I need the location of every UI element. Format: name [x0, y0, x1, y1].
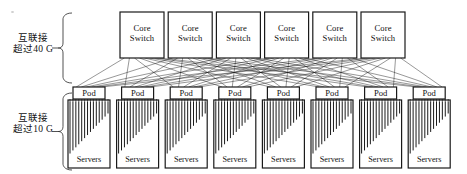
core-switch-2[interactable]: CoreSwitch: [168, 24, 212, 43]
core-switch-5[interactable]: CoreSwitch: [313, 24, 357, 43]
servers-6[interactable]: Servers: [311, 155, 353, 164]
core-switch-label-line2: Switch: [265, 34, 309, 44]
core-switch-3[interactable]: CoreSwitch: [216, 24, 260, 43]
servers-2[interactable]: Servers: [117, 155, 159, 164]
pod-5[interactable]: Pod: [267, 89, 299, 99]
core-tier-label-line1: 互联接: [4, 33, 62, 44]
core-switch-label-line2: Switch: [361, 34, 405, 44]
pod-tier-label: 互联接 超过10 G: [4, 113, 62, 134]
core-tier-label-line2: 超过40 G: [4, 44, 62, 55]
pod-8[interactable]: Pod: [413, 89, 445, 99]
pod-4[interactable]: Pod: [219, 89, 251, 99]
core-switch-label-line2: Switch: [313, 34, 357, 44]
servers-7[interactable]: Servers: [360, 155, 402, 164]
servers-4[interactable]: Servers: [214, 155, 256, 164]
core-switch-label-line2: Switch: [120, 34, 164, 44]
servers-5[interactable]: Servers: [262, 155, 304, 164]
core-switch-1[interactable]: CoreSwitch: [120, 24, 164, 43]
pod-3[interactable]: Pod: [170, 89, 202, 99]
core-switch-4[interactable]: CoreSwitch: [265, 24, 309, 43]
pod-7[interactable]: Pod: [365, 89, 397, 99]
pod-tier-label-line2: 超过10 G: [4, 124, 62, 135]
pod-tier-label-line1: 互联接: [4, 113, 62, 124]
servers-8[interactable]: Servers: [408, 155, 450, 164]
pod-6[interactable]: Pod: [316, 89, 348, 99]
pod-2[interactable]: Pod: [122, 89, 154, 99]
core-tier-label: 互联接 超过40 G: [4, 33, 62, 54]
topology-diagram: 互联接 超过40 G 互联接 超过10 G CoreSwitchCoreSwit…: [0, 0, 467, 174]
core-switch-label-line2: Switch: [168, 34, 212, 44]
servers-1[interactable]: Servers: [68, 155, 110, 164]
core-switch-6[interactable]: CoreSwitch: [361, 24, 405, 43]
servers-3[interactable]: Servers: [165, 155, 207, 164]
pod-1[interactable]: Pod: [73, 89, 105, 99]
core-switch-label-line2: Switch: [216, 34, 260, 44]
